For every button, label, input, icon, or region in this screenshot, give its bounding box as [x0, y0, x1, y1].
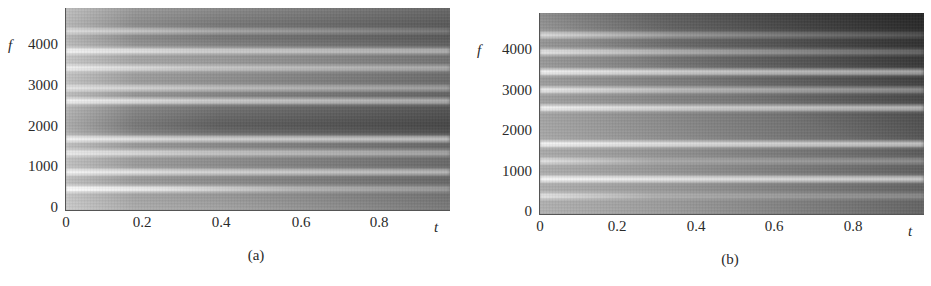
x-tick: 0.4	[676, 219, 716, 234]
x-tick: 0.2	[597, 219, 637, 234]
y-axis-label: f	[477, 43, 481, 58]
spectrogram-plot-b	[539, 13, 924, 215]
y-tick: 1000	[488, 164, 532, 179]
y-tick: 1000	[14, 159, 58, 174]
y-tick: 2000	[14, 119, 58, 134]
y-tick: 0	[488, 204, 532, 219]
y-tick: 2000	[488, 123, 532, 138]
y-tick: 4000	[14, 37, 58, 52]
panel-label-a: (a)	[236, 247, 276, 263]
spectrogram-plot-a	[65, 8, 450, 211]
y-axis-label: f	[8, 38, 12, 53]
x-tick: 0	[46, 215, 86, 230]
x-tick: 0.8	[833, 219, 873, 234]
panel-label-b: (b)	[710, 251, 750, 267]
x-tick: 0.8	[359, 215, 399, 230]
y-tick: 3000	[488, 83, 532, 98]
x-axis-label: t	[908, 224, 912, 239]
x-tick: 0	[520, 219, 560, 234]
x-axis-label: t	[434, 220, 438, 235]
y-tick: 3000	[14, 78, 58, 93]
x-tick: 0.2	[122, 215, 162, 230]
y-tick: 0	[14, 200, 58, 215]
x-tick: 0.6	[754, 219, 794, 234]
x-tick: 0.4	[201, 215, 241, 230]
spectrogram-panel-b: f 4000 3000 2000 1000 0 0 0.2 0.4 0.6 0.…	[470, 0, 931, 286]
y-tick: 4000	[488, 42, 532, 57]
spectrogram-panel-a: f 4000 3000 2000 1000 0 0 0.2 0.4 0.6 0.…	[0, 0, 470, 286]
x-tick: 0.6	[281, 215, 321, 230]
